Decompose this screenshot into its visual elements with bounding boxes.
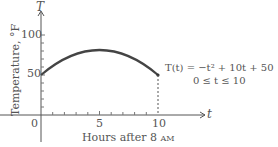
temperature-curve [41,50,158,75]
x-axis-symbol: t [207,107,212,121]
formula-annotation: T(t) = −t² + 10t + 50 [165,62,274,73]
x-axis-label: Hours after 8 AM [82,131,174,144]
y-tick-label-100: 100 [21,28,42,41]
chart-canvas [0,0,278,147]
x-axis-label-text: Hours after 8 [82,131,161,144]
x-tick-label-0: 0 [31,117,38,130]
x-tick-label-5: 5 [96,117,103,130]
y-tick-label-50: 50 [27,67,41,80]
x-axis-label-am: AM [161,134,175,143]
y-axis-label: Temperature, °F [9,24,22,116]
x-tick-label-10: 10 [152,117,166,130]
x-ticks [53,111,147,115]
y-axis-symbol: T [36,0,44,14]
domain-annotation: 0 ≤ t ≤ 10 [193,75,246,86]
